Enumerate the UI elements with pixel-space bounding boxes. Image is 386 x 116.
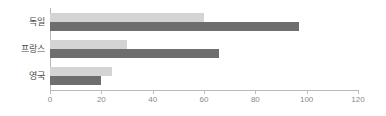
x-axis-tick — [358, 91, 359, 94]
x-axis-tick-label: 20 — [88, 95, 114, 105]
bar-row — [50, 40, 358, 49]
bar-chart: 독일프랑스영국 020406080100120 — [0, 0, 386, 116]
bar — [50, 22, 299, 31]
x-axis-tick — [101, 91, 102, 94]
x-axis-tick-label: 120 — [345, 95, 371, 105]
bar-row — [50, 49, 358, 58]
bar-group — [50, 40, 358, 58]
x-axis-tick — [153, 91, 154, 94]
x-axis-tick-label: 80 — [242, 95, 268, 105]
bar — [50, 40, 127, 49]
x-axis-tick — [307, 91, 308, 94]
category-axis-label: 독일 — [1, 17, 45, 27]
x-axis-tick — [204, 91, 205, 94]
category-axis-label: 영국 — [1, 71, 45, 81]
bar-row — [50, 22, 358, 31]
bar-group — [50, 13, 358, 31]
x-axis-tick — [50, 91, 51, 94]
bar — [50, 49, 219, 58]
x-axis-tick — [255, 91, 256, 94]
bar-row — [50, 76, 358, 85]
x-axis-tick-label: 40 — [140, 95, 166, 105]
bar — [50, 76, 101, 85]
x-axis-tick-label: 60 — [191, 95, 217, 105]
bar — [50, 67, 112, 76]
bar — [50, 13, 204, 22]
bar-group — [50, 67, 358, 85]
category-axis-label: 프랑스 — [1, 44, 45, 54]
x-axis-tick-label: 100 — [294, 95, 320, 105]
bar-row — [50, 13, 358, 22]
plot-area — [50, 8, 358, 90]
bar-row — [50, 67, 358, 76]
category-axis-labels: 독일프랑스영국 — [0, 8, 45, 90]
x-axis-tick-label: 0 — [37, 95, 63, 105]
